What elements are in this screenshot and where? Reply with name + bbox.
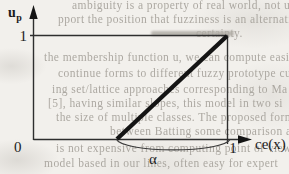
x-axis-tick-label-1: 1	[227, 141, 239, 156]
membership-function-plot	[0, 0, 289, 174]
alpha-span-ellipse	[117, 140, 231, 150]
alpha-annotation-label: α	[149, 152, 157, 167]
y-axis-title-subscript: p	[16, 12, 22, 23]
scanned-figure-page: ambiguity is a property of real world, n…	[0, 0, 289, 174]
y-axis-title-base: u	[8, 5, 16, 20]
x-axis-arrowhead-icon	[238, 135, 252, 143]
origin-tick-label-0: 0	[14, 140, 22, 155]
y-axis-title: up	[8, 6, 21, 20]
y-axis-arrowhead-icon	[29, 5, 37, 19]
x-axis-title: ce(x)	[255, 137, 286, 152]
membership-function-line	[117, 36, 227, 139]
y-axis-tick-label-1: 1	[13, 29, 27, 44]
